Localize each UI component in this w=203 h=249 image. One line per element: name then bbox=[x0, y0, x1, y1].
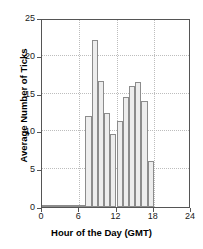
x-tick-label-12: 12 bbox=[104, 212, 128, 221]
y-tick-mark-20 bbox=[37, 57, 41, 58]
gridline-x-18 bbox=[154, 20, 155, 207]
y-axis-title: Average Number of Ticks bbox=[18, 26, 29, 186]
y-tick-mark-25 bbox=[37, 19, 41, 20]
y-tick-mark-5 bbox=[37, 170, 41, 171]
y-tick-mark-10 bbox=[37, 132, 41, 133]
chart-figure: 0510152025 06121824 Average Number of Ti… bbox=[0, 0, 203, 249]
x-tick-label-0: 0 bbox=[29, 212, 53, 221]
y-tick-label-0: 0 bbox=[7, 203, 35, 212]
x-tick-label-6: 6 bbox=[66, 212, 90, 221]
y-tick-label-25: 25 bbox=[7, 14, 35, 23]
bar bbox=[148, 161, 154, 207]
x-tick-label-18: 18 bbox=[141, 212, 165, 221]
y-tick-mark-15 bbox=[37, 95, 41, 96]
gridline-x-6 bbox=[79, 20, 80, 207]
plot-area bbox=[41, 19, 190, 208]
gridline-y-20 bbox=[42, 55, 189, 56]
gridline-y-10 bbox=[42, 130, 189, 131]
x-tick-label-24: 24 bbox=[178, 212, 202, 221]
x-axis-title: Hour of the Day (GMT) bbox=[0, 227, 203, 238]
gridline-y-15 bbox=[42, 93, 189, 94]
